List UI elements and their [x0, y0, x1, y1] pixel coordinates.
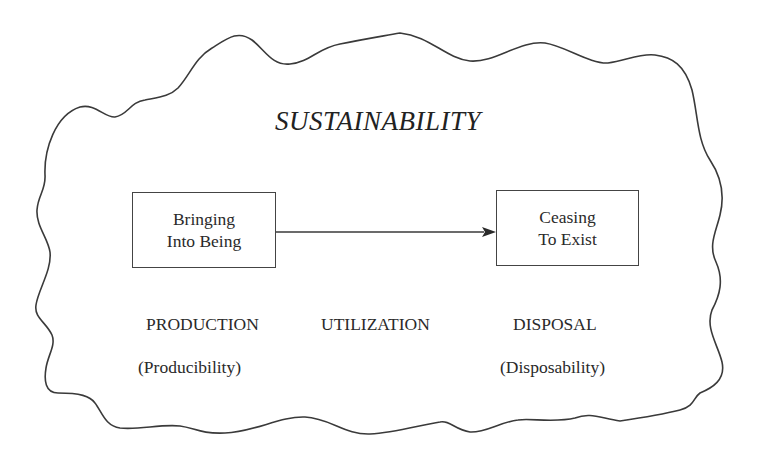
- stage-utilization: UTILIZATION: [321, 314, 430, 335]
- attribute-disposability: (Disposability): [500, 357, 605, 378]
- box-line: Into Being: [167, 230, 241, 252]
- arrowhead-icon: [482, 227, 496, 237]
- cloud-boundary: [0, 0, 761, 452]
- box-line: To Exist: [538, 228, 597, 250]
- flow-arrow: [276, 227, 496, 237]
- stage-disposal: DISPOSAL: [513, 314, 597, 335]
- diagram-title: SUSTAINABILITY: [228, 106, 528, 137]
- attribute-producibility: (Producibility): [138, 357, 241, 378]
- stage-production: PRODUCTION: [146, 314, 259, 335]
- box-line: Ceasing: [539, 206, 595, 228]
- box-bringing-into-being: Bringing Into Being: [132, 192, 276, 268]
- box-ceasing-to-exist: Ceasing To Exist: [496, 190, 639, 266]
- box-line: Bringing: [173, 208, 235, 230]
